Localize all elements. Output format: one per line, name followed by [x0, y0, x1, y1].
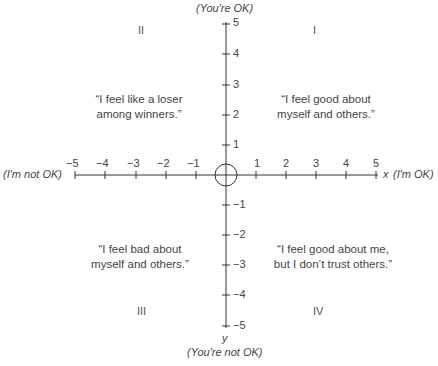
quadrant-IV-quote: “I feel good about me, but I don’t trust… [252, 242, 414, 272]
quote-line: myself and others.” [256, 107, 396, 122]
quadrant-IV-numeral: IV [313, 305, 323, 317]
quadrant-II-quote: “I feel like a loser among winners.” [72, 92, 206, 122]
quadrant-II-numeral: II [138, 24, 144, 36]
x-tick-label: 1 [254, 157, 260, 169]
axes-graphic [0, 0, 438, 366]
quadrant-I-numeral: I [313, 24, 316, 36]
quote-line: “I feel like a loser [72, 92, 206, 107]
y-tick-label: −5 [233, 319, 246, 331]
y-tick-label: 3 [233, 78, 239, 90]
y-tick-label: −4 [233, 288, 246, 300]
quadrant-III-numeral: III [137, 305, 146, 317]
x-tick-label: −1 [187, 157, 200, 169]
x-axis-name: x [383, 168, 389, 180]
y-tick-label: 5 [233, 16, 239, 28]
x-tick-label: 2 [283, 157, 289, 169]
quote-line: “I feel good about me, [252, 242, 414, 257]
quote-line: among winners.” [72, 107, 206, 122]
y-tick-label: 1 [233, 138, 239, 150]
x-tick-label: 4 [343, 157, 349, 169]
quadrant-III-quote: “I feel bad about myself and others.” [70, 242, 210, 272]
x-axis-positive-label: (I'm OK) [393, 168, 434, 180]
x-tick-label: −3 [127, 157, 140, 169]
x-tick-label: −2 [157, 157, 170, 169]
y-tick-label: −2 [233, 228, 246, 240]
y-axis-positive-label: (You're OK) [196, 2, 253, 14]
quadrant-I-quote: “I feel good about myself and others.” [256, 92, 396, 122]
quote-line: “I feel bad about [70, 242, 210, 257]
x-axis-negative-label: (I'm not OK) [3, 168, 62, 180]
y-axis-negative-label: (You're not OK) [187, 346, 262, 358]
x-tick-label: −4 [96, 157, 109, 169]
x-tick-label: −5 [66, 157, 79, 169]
quote-line: “I feel good about [256, 92, 396, 107]
y-tick-label: 4 [233, 47, 239, 59]
y-tick-label: 2 [233, 108, 239, 120]
quote-line: myself and others.” [70, 257, 210, 272]
x-tick-label: 3 [313, 157, 319, 169]
y-tick-label: −1 [233, 198, 246, 210]
x-tick-label: 5 [373, 157, 379, 169]
y-tick-label: −3 [233, 258, 246, 270]
y-axis-name: y [222, 332, 228, 344]
quote-line: but I don’t trust others.” [252, 257, 414, 272]
